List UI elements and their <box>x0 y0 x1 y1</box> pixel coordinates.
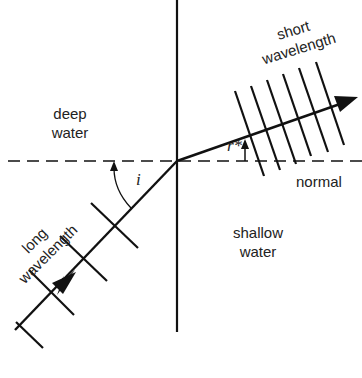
shallow-water-line-1: shallow <box>226 223 290 242</box>
shallow-water-label: shallow water <box>226 223 290 261</box>
refraction-angle-arrowhead-icon <box>241 139 249 149</box>
refracted-ray <box>177 104 340 161</box>
deep-water-line-1: deep <box>38 104 102 123</box>
incidence-angle-arrowhead-icon <box>110 161 118 171</box>
refracted-arrowhead-icon <box>334 96 358 112</box>
short-wavefronts <box>235 62 344 176</box>
incidence-angle-arc <box>114 168 131 208</box>
incident-arrowhead-icon <box>52 272 76 294</box>
deep-water-label: deep water <box>38 104 102 142</box>
deep-water-line-2: water <box>38 123 102 142</box>
normal-label: normal <box>296 172 342 191</box>
shallow-water-line-2: water <box>226 242 290 261</box>
incidence-angle-label: i <box>136 170 141 189</box>
refraction-angle-label: r* <box>227 136 242 155</box>
